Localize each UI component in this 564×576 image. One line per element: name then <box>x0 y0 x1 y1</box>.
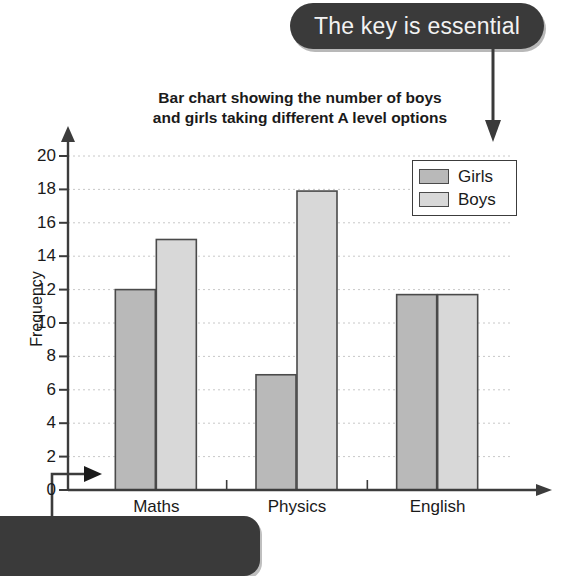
x-category-label: Maths <box>96 498 216 516</box>
bar-english-boys <box>438 295 478 490</box>
y-tick-label: 8 <box>22 347 56 364</box>
bar-physics-boys <box>297 191 337 490</box>
bottom-callout-arrow-icon <box>84 466 102 482</box>
x-axis-arrow-icon <box>536 484 552 496</box>
y-tick-label: 4 <box>22 414 56 431</box>
y-tick-label: 12 <box>22 281 56 298</box>
bottom-callout-bubble <box>0 516 260 576</box>
x-category-label: Physics <box>237 498 357 516</box>
legend-item-boys: Boys <box>419 188 510 211</box>
y-axis-arrow-icon <box>61 126 75 142</box>
top-callout-bubble: The key is essential <box>290 3 544 49</box>
top-callout-text: The key is essential <box>314 13 520 40</box>
bar-maths-boys <box>156 240 196 491</box>
legend-item-girls: Girls <box>419 165 510 188</box>
chart-title-line-2: and girls taking different A level optio… <box>105 108 495 128</box>
y-tick-label: 10 <box>22 314 56 331</box>
y-tick-label: 16 <box>22 214 56 231</box>
bar-maths-girls <box>115 290 155 490</box>
y-tick-label: 20 <box>22 147 56 164</box>
legend-swatch-girls-icon <box>419 169 449 184</box>
y-tick-label: 18 <box>22 180 56 197</box>
chart-title-line-1: Bar chart showing the number of boys <box>105 88 495 108</box>
chart-legend: Girls Boys <box>412 160 517 216</box>
chart-title: Bar chart showing the number of boys and… <box>105 88 495 128</box>
x-category-label: English <box>378 498 498 516</box>
y-tick-label: 0 <box>22 481 56 498</box>
legend-label-boys: Boys <box>458 191 496 208</box>
bar-physics-girls <box>256 375 296 490</box>
legend-swatch-boys-icon <box>419 192 449 207</box>
bar-english-girls <box>397 295 437 490</box>
y-tick-label: 6 <box>22 381 56 398</box>
y-tick-label: 2 <box>22 448 56 465</box>
legend-label-girls: Girls <box>458 168 493 185</box>
y-tick-label: 14 <box>22 247 56 264</box>
